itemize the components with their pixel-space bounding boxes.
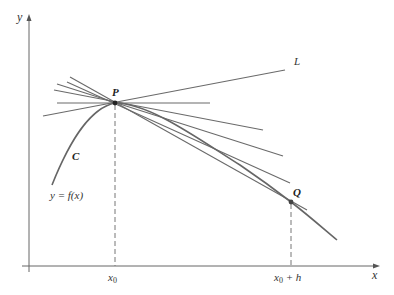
x0-label-sub: 0	[113, 276, 117, 285]
x-axis-label: x	[371, 268, 378, 282]
secant-tangent-diagram: y x P Q L C y = f(x) x0 x0 + h	[0, 0, 394, 295]
x0h-label: x0 + h	[273, 271, 302, 285]
secant-pq	[70, 77, 307, 210]
curve-c-label: C	[72, 150, 80, 162]
point-q-label: Q	[293, 186, 301, 198]
y-axis-arrow-icon	[27, 14, 32, 21]
point-p-label: P	[112, 86, 119, 98]
point-p-marker	[113, 101, 118, 106]
secant-line-2	[67, 82, 290, 183]
function-label: y = f(x)	[49, 189, 83, 202]
curve-c	[52, 103, 337, 240]
x0-label: x0	[107, 271, 117, 285]
secant-line-3	[57, 84, 283, 156]
x0h-label-rest: + h	[283, 271, 302, 283]
tangent-line-l	[43, 70, 285, 116]
line-l-label: L	[293, 55, 300, 67]
point-q-marker	[289, 200, 294, 205]
y-axis-label: y	[16, 10, 23, 24]
